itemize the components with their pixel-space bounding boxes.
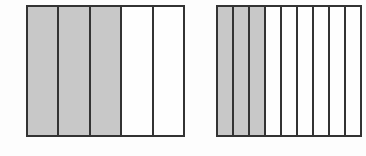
fraction-bar-fifths bbox=[26, 5, 185, 137]
unshaded-part bbox=[154, 7, 183, 135]
shaded-part bbox=[59, 7, 90, 135]
unshaded-part bbox=[362, 7, 366, 135]
unshaded-part bbox=[266, 7, 282, 135]
shaded-part bbox=[234, 7, 250, 135]
shaded-part bbox=[250, 7, 266, 135]
unshaded-part bbox=[298, 7, 314, 135]
shaded-part bbox=[28, 7, 59, 135]
unshaded-part bbox=[346, 7, 362, 135]
unshaded-part bbox=[330, 7, 346, 135]
unshaded-part bbox=[282, 7, 298, 135]
fraction-bar-tenths bbox=[216, 5, 362, 137]
shaded-part bbox=[91, 7, 122, 135]
unshaded-part bbox=[122, 7, 153, 135]
unshaded-part bbox=[314, 7, 330, 135]
shaded-part bbox=[218, 7, 234, 135]
